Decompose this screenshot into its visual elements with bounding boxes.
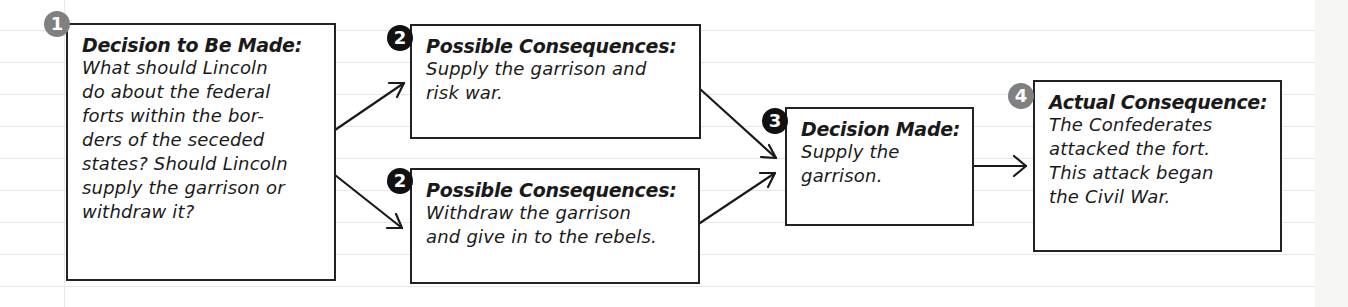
step-body: Supply the garrison and risk war. — [426, 57, 687, 105]
step-body: Withdraw the garrison and give in to the… — [426, 201, 686, 249]
arrow-2b-to-3 — [700, 173, 775, 223]
step-body: What should Lincoln do about the federal… — [82, 56, 322, 224]
step-title: Possible Consequences: — [426, 179, 686, 201]
step-number-badge: 1 — [44, 11, 70, 37]
step-body: The Confederates attacked the fort. This… — [1049, 113, 1268, 209]
step-number-badge: 4 — [1008, 83, 1034, 109]
step-title: Actual Consequence: — [1049, 91, 1268, 113]
step-1-decision-to-be-made: Decision to Be Made: What should Lincoln… — [66, 23, 336, 281]
arrowhead-icon — [760, 173, 775, 187]
step-number-badge: 2 — [387, 168, 413, 194]
step-title: Decision to Be Made: — [82, 34, 322, 56]
step-4-actual-consequence: Actual Consequence: The Confederates att… — [1033, 80, 1282, 252]
step-2-possible-consequence-withdraw: Possible Consequences: Withdraw the garr… — [410, 168, 700, 284]
step-number-badge: 3 — [762, 108, 788, 134]
step-body: Supply the garrison. — [801, 140, 960, 188]
step-title: Possible Consequences: — [426, 35, 687, 57]
step-3-decision-made: Decision Made: Supply the garrison. — [785, 107, 974, 226]
step-2-possible-consequence-supply: Possible Consequences: Supply the garris… — [410, 24, 701, 139]
step-title: Decision Made: — [801, 118, 960, 140]
step-number-badge: 2 — [387, 25, 413, 51]
arrowhead-icon — [389, 83, 404, 97]
arrow-1-to-2a — [335, 83, 404, 130]
